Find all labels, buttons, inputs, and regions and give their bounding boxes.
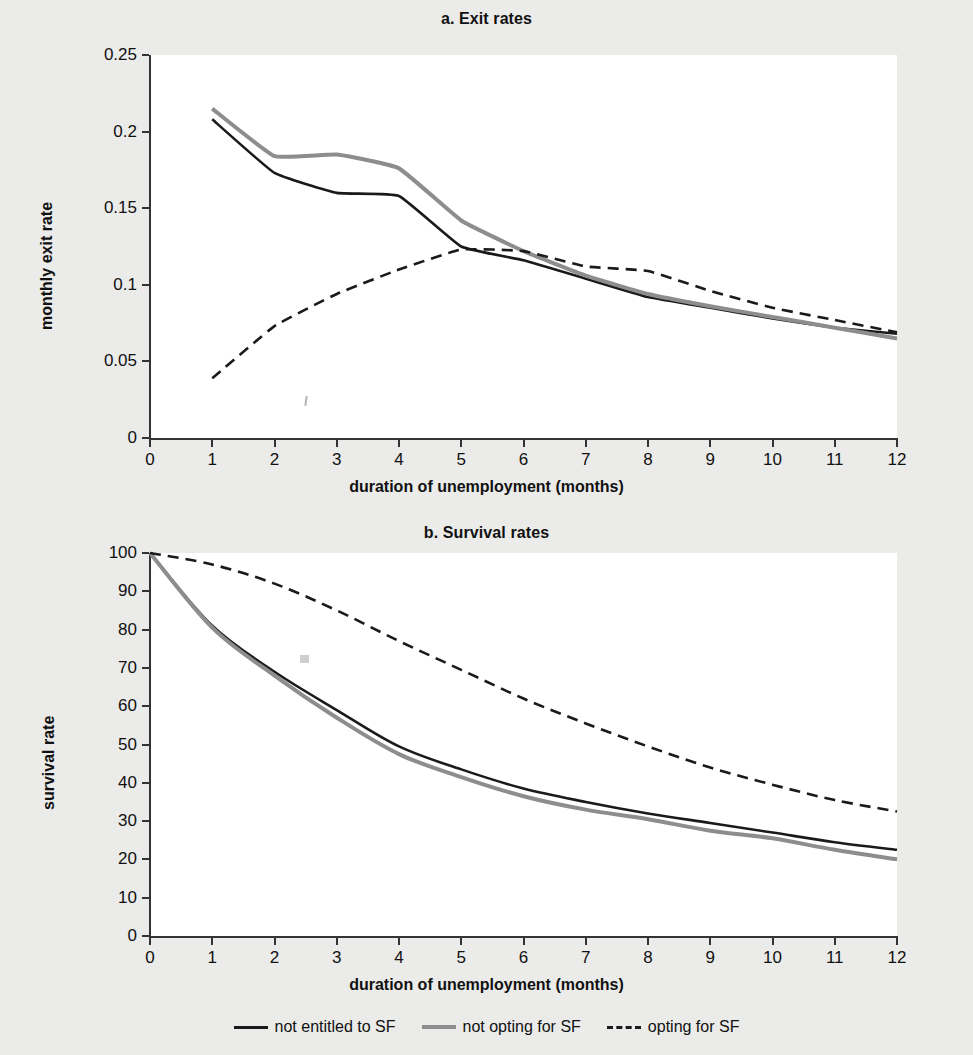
- legend-item-not-entitled: not entitled to SF: [234, 1018, 396, 1036]
- legend-label-not-opting: not opting for SF: [463, 1018, 581, 1036]
- chart-panel-exit-rates: a. Exit rates 00.050.10.150.20.25 012345…: [0, 0, 973, 510]
- chart-panel-survival-rates: b. Survival rates 0102030405060708090100…: [0, 510, 973, 1010]
- legend-line-solid-gray-icon: [422, 1025, 456, 1029]
- legend-label-not-entitled: not entitled to SF: [275, 1018, 396, 1036]
- legend-item-not-opting: not opting for SF: [422, 1018, 581, 1036]
- scan-artifact-speck-b: [300, 655, 309, 663]
- legend-label-opting: opting for SF: [648, 1018, 740, 1036]
- legend-line-solid-black-icon: [234, 1026, 268, 1029]
- chart-b-series-layer: [0, 510, 973, 1010]
- chart-legend: not entitled to SF not opting for SF opt…: [0, 1018, 973, 1036]
- series-line: [212, 119, 897, 333]
- series-line: [150, 553, 897, 859]
- legend-line-dashed-icon: [607, 1026, 641, 1029]
- legend-item-opting: opting for SF: [607, 1018, 740, 1036]
- series-line: [150, 553, 897, 850]
- chart-a-series-layer: [0, 0, 973, 510]
- series-line: [150, 553, 897, 812]
- figure-container: a. Exit rates 00.050.10.150.20.25 012345…: [0, 0, 973, 1055]
